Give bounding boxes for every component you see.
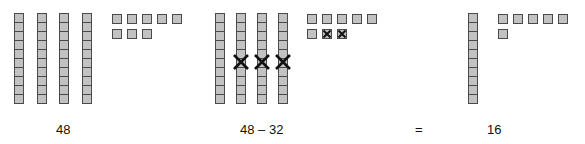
cross-out-icon — [338, 30, 346, 38]
unit-cube — [142, 14, 152, 24]
rod-cell — [215, 94, 225, 104]
cross-out-icon — [323, 30, 331, 38]
unit-cube — [367, 14, 377, 24]
rod-cell — [37, 94, 47, 104]
unit-cube — [112, 29, 122, 39]
unit-cube — [172, 14, 182, 24]
unit-cube — [528, 14, 538, 24]
unit-cube — [157, 14, 167, 24]
rod-cell — [82, 94, 92, 104]
unit-cube — [558, 14, 568, 24]
label-subtraction: 48 – 32 — [240, 122, 283, 137]
label-equals: = — [415, 122, 423, 137]
rod-cell — [236, 94, 246, 104]
unit-cube — [127, 29, 137, 39]
unit-cube — [543, 14, 553, 24]
ten-rod — [59, 13, 69, 103]
rod-cell — [14, 94, 24, 104]
unit-cube — [307, 14, 317, 24]
cross-out-icon — [253, 53, 271, 71]
unit-cube — [322, 29, 332, 39]
unit-cube — [498, 29, 508, 39]
unit-cube — [307, 29, 317, 39]
unit-cube — [322, 14, 332, 24]
unit-cube — [142, 29, 152, 39]
unit-cube — [112, 14, 122, 24]
rod-cell — [59, 94, 69, 104]
unit-cube — [127, 14, 137, 24]
label-minuend: 48 — [56, 122, 70, 137]
ten-rod — [468, 13, 478, 103]
ten-rod — [215, 13, 225, 103]
unit-cube — [498, 14, 508, 24]
cross-out-icon — [274, 53, 292, 71]
label-result: 16 — [487, 122, 501, 137]
rod-cell — [468, 94, 478, 104]
ten-rod — [37, 13, 47, 103]
unit-cube — [513, 14, 523, 24]
unit-cube — [352, 14, 362, 24]
rod-cell — [257, 94, 267, 104]
unit-cube — [337, 14, 347, 24]
rod-cell — [278, 94, 288, 104]
cross-out-icon — [232, 53, 250, 71]
unit-cube — [337, 29, 347, 39]
ten-rod — [14, 13, 24, 103]
ten-rod — [82, 13, 92, 103]
